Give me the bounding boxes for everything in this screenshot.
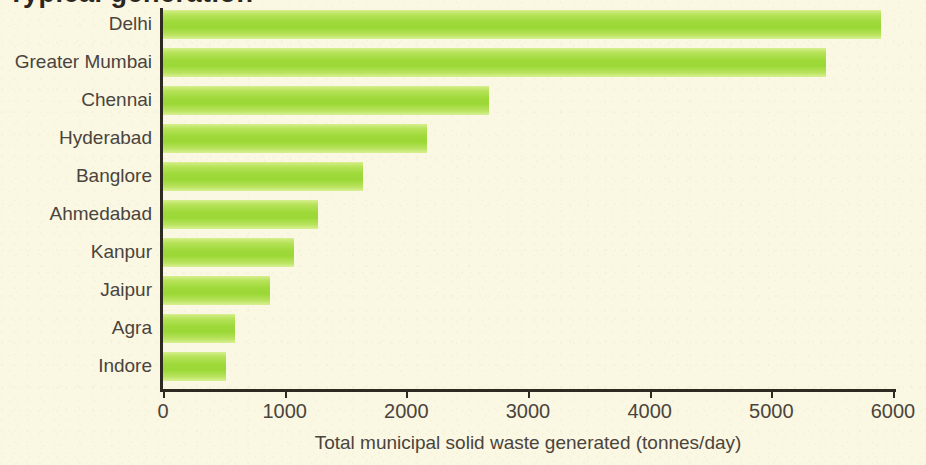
- cropped-title-text: Typical generation: [8, 0, 254, 8]
- x-tick-label-3000: 3000: [506, 400, 551, 423]
- x-tick-label-4000: 4000: [627, 400, 672, 423]
- bar-row: [163, 238, 294, 267]
- x-tick-label-5000: 5000: [749, 400, 794, 423]
- x-tick-0: [163, 389, 165, 398]
- x-tick-5000: [771, 389, 773, 398]
- bar-row: [163, 10, 881, 39]
- y-axis-label-jaipur: Jaipur: [0, 279, 152, 301]
- bar-banglore: [163, 162, 363, 191]
- y-axis-label-chennai: Chennai: [0, 89, 152, 111]
- x-tick-3000: [528, 389, 530, 398]
- y-axis-label-greater-mumbai: Greater Mumbai: [0, 51, 152, 73]
- bar-kanpur: [163, 238, 294, 267]
- x-tick-1000: [285, 389, 287, 398]
- bar-greater-mumbai: [163, 48, 826, 77]
- x-tick-label-6000: 6000: [871, 400, 916, 423]
- bar-row: [163, 200, 318, 229]
- bar-row: [163, 276, 270, 305]
- y-axis-label-ahmedabad: Ahmedabad: [0, 203, 152, 225]
- x-axis-title: Total municipal solid waste generated (t…: [163, 432, 893, 454]
- bar-jaipur: [163, 276, 270, 305]
- bar-indore: [163, 352, 226, 381]
- bar-row: [163, 352, 226, 381]
- chart-figure: Typical generation DelhiGreater MumbaiCh…: [0, 0, 926, 465]
- x-tick-6000: [893, 389, 895, 398]
- x-tick-label-0: 0: [157, 400, 168, 423]
- bar-ahmedabad: [163, 200, 318, 229]
- y-axis-label-kanpur: Kanpur: [0, 241, 152, 263]
- x-tick-label-1000: 1000: [262, 400, 307, 423]
- bar-row: [163, 124, 427, 153]
- y-axis-label-agra: Agra: [0, 317, 152, 339]
- bar-chennai: [163, 86, 489, 115]
- bar-delhi: [163, 10, 881, 39]
- y-axis-label-indore: Indore: [0, 355, 152, 377]
- bar-agra: [163, 314, 235, 343]
- cropped-title-remnant: Typical generation: [0, 0, 926, 8]
- x-tick-label-2000: 2000: [384, 400, 429, 423]
- y-axis-label-delhi: Delhi: [0, 13, 152, 35]
- bar-row: [163, 86, 489, 115]
- bar-row: [163, 162, 363, 191]
- bar-row: [163, 314, 235, 343]
- x-tick-4000: [650, 389, 652, 398]
- x-tick-2000: [406, 389, 408, 398]
- bar-row: [163, 48, 826, 77]
- bar-hyderabad: [163, 124, 427, 153]
- y-axis-label-hyderabad: Hyderabad: [0, 127, 152, 149]
- y-axis-label-banglore: Banglore: [0, 165, 152, 187]
